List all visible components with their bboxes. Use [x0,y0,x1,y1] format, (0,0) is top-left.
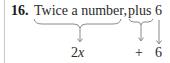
variable: x [78,45,84,60]
expression-six: 6 [155,45,162,61]
brace-icon [34,19,121,28]
brace-icon [129,19,153,25]
expression-plus: + [135,45,143,61]
expression-2x: 2x [71,45,84,61]
coefficient: 2 [71,45,78,60]
braces-and-arrows [0,0,170,63]
